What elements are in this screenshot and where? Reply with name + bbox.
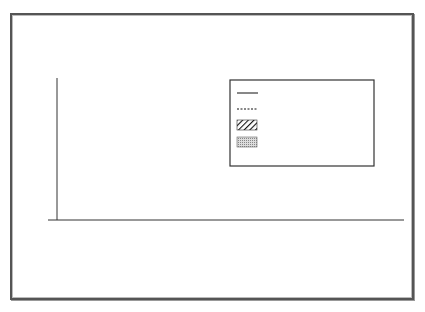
migration-chart [0,0,425,312]
grid-hatch-icon [237,137,257,147]
legend [230,80,374,166]
diagonal-hatch-icon [237,120,257,130]
